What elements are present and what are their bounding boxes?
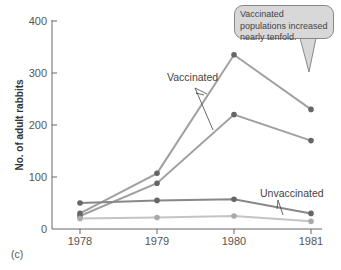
data-point [308,107,314,113]
data-point [231,197,237,203]
data-point [154,198,160,204]
y-tick-label: 100 [29,171,47,183]
y-tick-label: 200 [29,119,47,131]
data-point [77,216,83,222]
y-tick-label: 0 [41,223,47,235]
data-point [231,112,237,118]
data-point [308,218,314,224]
data-point [308,211,314,217]
y-axis-label: No. of adult rabbits [14,79,25,171]
data-point [231,213,237,219]
data-point [154,180,160,186]
y-ticks: 0100200300400 [29,15,57,235]
x-tick-label: 1979 [145,235,169,247]
callout-tail [300,38,316,72]
x-ticks: 1978197919801981 [68,229,323,247]
data-point [77,200,83,206]
y-tick-label: 300 [29,67,47,79]
series-line [77,213,314,224]
data-point [308,138,314,144]
unvaccinated-label: Unvaccinated [260,187,324,199]
y-tick-label: 400 [29,15,47,27]
callout-box: Vaccinated populations increased nearly … [234,5,334,39]
series-line [77,197,314,217]
panel-label: (c) [11,248,23,260]
x-tick-label: 1978 [68,235,92,247]
x-tick-label: 1981 [299,235,323,247]
x-tick-label: 1980 [222,235,246,247]
data-point [231,52,237,58]
data-point [154,215,160,221]
data-point [154,171,160,177]
vaccinated-label: Vaccinated [167,71,218,83]
